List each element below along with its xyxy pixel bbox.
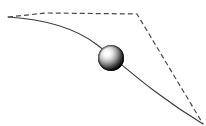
shaded-sphere (98, 45, 124, 71)
sphere-rim-shading (98, 45, 124, 71)
figure-canvas: Trajectory comparison diagram smooth con… (0, 0, 206, 126)
curve-diagram (0, 0, 206, 126)
